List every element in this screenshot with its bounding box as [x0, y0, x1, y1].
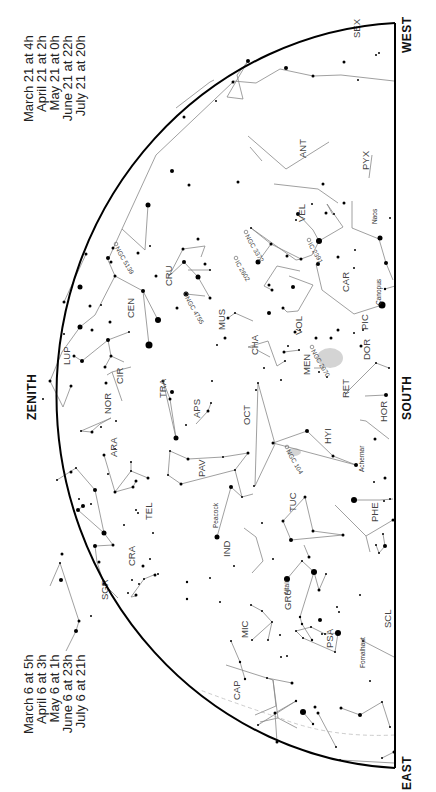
star [373, 481, 375, 483]
star [257, 382, 259, 384]
star [224, 337, 227, 340]
deep-sky-label: NGC 4755 [184, 295, 206, 325]
star [197, 238, 200, 241]
constellation-line [104, 455, 115, 492]
constellation-line [252, 561, 263, 573]
star [137, 252, 140, 255]
star [384, 261, 388, 265]
star [295, 630, 297, 632]
star [149, 558, 151, 560]
star [209, 297, 212, 300]
east-label: EAST [400, 756, 414, 790]
deep-sky-marker-icon [307, 238, 311, 242]
constellation-label: TRA [157, 378, 168, 398]
star-label: Altair [283, 579, 290, 595]
star [359, 594, 361, 596]
star [299, 616, 301, 618]
constellation-label: PIC [359, 314, 370, 330]
star [378, 552, 380, 554]
constellation-line [341, 708, 360, 715]
star [105, 382, 108, 385]
star [389, 498, 391, 500]
ecliptic-path [200, 690, 395, 735]
star [381, 757, 383, 759]
star [170, 169, 174, 173]
star [342, 534, 345, 537]
constellation-label: CRU [163, 265, 174, 286]
constellation-line [217, 470, 242, 537]
star [152, 532, 154, 534]
star [298, 349, 300, 351]
star [311, 203, 313, 205]
star [141, 289, 145, 293]
star [282, 520, 285, 523]
star [93, 544, 97, 548]
constellation-label: MEN [301, 354, 312, 375]
star [318, 589, 321, 592]
star-label: Fomalhaut [359, 637, 366, 668]
deep-sky-labels: NGC 5139NGC 3372IC 2602NGC 4755IC 2391NG… [114, 230, 332, 475]
star [182, 248, 185, 251]
constellation-line [50, 381, 71, 407]
star [78, 325, 83, 330]
star [381, 701, 383, 703]
constellation-line [376, 363, 389, 368]
star [210, 402, 212, 404]
constellation-line [267, 678, 292, 683]
star [114, 275, 117, 278]
constellation-label: RET [340, 379, 351, 398]
star [318, 371, 320, 373]
constellation-line [244, 528, 263, 561]
constellation-label: PAV [196, 459, 207, 477]
star [196, 275, 201, 280]
constellation-label: CRA [126, 545, 137, 566]
star [312, 723, 314, 725]
star [135, 509, 137, 511]
star [106, 338, 110, 342]
star [80, 359, 84, 363]
constellation-line [287, 561, 314, 579]
constellation-label: TEL [143, 503, 154, 520]
star [312, 75, 315, 78]
star [149, 245, 151, 247]
star [185, 424, 187, 426]
constellation-line [283, 276, 313, 312]
star [280, 379, 282, 381]
star [284, 360, 286, 362]
star [354, 249, 356, 251]
star [157, 573, 159, 575]
constellation-line [335, 505, 393, 536]
star [279, 634, 281, 636]
star [222, 456, 224, 458]
star [81, 504, 85, 508]
star [384, 477, 387, 480]
star [70, 471, 73, 474]
constellation-line [81, 418, 111, 432]
star [209, 577, 211, 579]
star [98, 561, 101, 564]
star [351, 497, 357, 503]
star [337, 329, 340, 332]
star [375, 544, 377, 546]
star [383, 544, 387, 548]
star [42, 398, 44, 400]
star [90, 503, 92, 505]
star [132, 486, 135, 489]
star [291, 285, 295, 289]
star [169, 450, 171, 452]
constellation-label: SCL [382, 610, 393, 628]
star [49, 380, 52, 383]
deep-sky-marker-icon [234, 256, 238, 260]
star [315, 337, 318, 340]
constellation-label: DOR [361, 339, 372, 360]
star [56, 479, 58, 481]
constellation-label: CEN [125, 298, 136, 318]
constellation-line [251, 605, 262, 611]
constellation-labels: SEXANTPYXVELCARCRUCENMUSCHAVOLPICDORMENC… [61, 18, 393, 700]
star-label: Canopus [375, 278, 383, 305]
star [384, 288, 386, 290]
constellation-line [255, 383, 275, 486]
constellation-label: IND [221, 541, 232, 558]
star [104, 366, 107, 369]
constellation-line [379, 239, 393, 280]
